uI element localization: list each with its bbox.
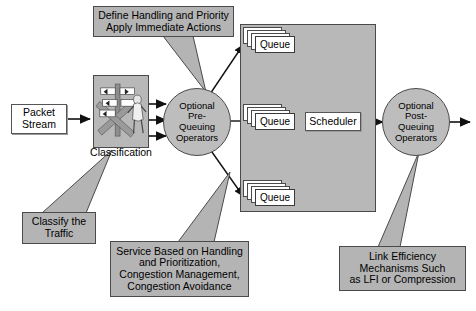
classification-box[interactable] <box>93 75 149 148</box>
callout-link-efficiency[interactable]: Link Efficiency Mechanisms Such as LFI o… <box>339 246 466 291</box>
post-queuing-operators-circle[interactable]: Optional Post- Queuing Operators <box>382 88 450 156</box>
pre-queuing-operators-circle[interactable]: Optional Pre- Queuing Operators <box>163 88 231 156</box>
queue-top-label: Queue <box>260 39 290 50</box>
leader-service-based <box>178 172 230 242</box>
queue-stack-middle[interactable]: Queue <box>243 104 299 136</box>
classification-illustration-icon <box>94 75 148 148</box>
pre-queuing-operators-label: Optional Pre- Queuing Operators <box>176 101 218 144</box>
scheduler-label: Scheduler <box>309 116 356 128</box>
queue-middle-label: Queue <box>260 116 290 127</box>
scheduler-box[interactable]: Scheduler <box>305 112 361 131</box>
leader-link-efficiency <box>378 152 419 247</box>
callout-classify-traffic-label: Classify the Traffic <box>32 216 86 240</box>
queue-middle-box[interactable]: Queue <box>255 113 295 130</box>
queue-stack-top[interactable]: Queue <box>243 27 299 59</box>
packet-stream-label: Packet Stream <box>22 107 56 131</box>
callout-service-based-label: Service Based on Handling and Prioritiza… <box>116 246 243 293</box>
leader-define-handling <box>163 36 206 92</box>
callout-define-handling-label: Define Handling and Priority Apply Immed… <box>98 10 229 34</box>
post-queuing-operators-label: Optional Post- Queuing Operators <box>395 101 437 144</box>
queue-stack-bottom[interactable]: Queue <box>243 180 299 212</box>
callout-classify-traffic[interactable]: Classify the Traffic <box>22 212 96 244</box>
callout-service-based[interactable]: Service Based on Handling and Prioritiza… <box>110 241 249 297</box>
classification-label-wrap: Classification <box>88 146 154 160</box>
callout-define-handling[interactable]: Define Handling and Priority Apply Immed… <box>93 6 234 37</box>
packet-stream-box[interactable]: Packet Stream <box>11 104 67 134</box>
diagram-canvas: Packet Stream Classific <box>0 0 476 311</box>
queue-top-box[interactable]: Queue <box>255 36 295 53</box>
queue-bottom-label: Queue <box>260 192 290 203</box>
queue-bottom-box[interactable]: Queue <box>255 189 295 206</box>
callout-link-efficiency-label: Link Efficiency Mechanisms Such as LFI o… <box>349 251 455 286</box>
classification-label: Classification <box>90 147 152 159</box>
